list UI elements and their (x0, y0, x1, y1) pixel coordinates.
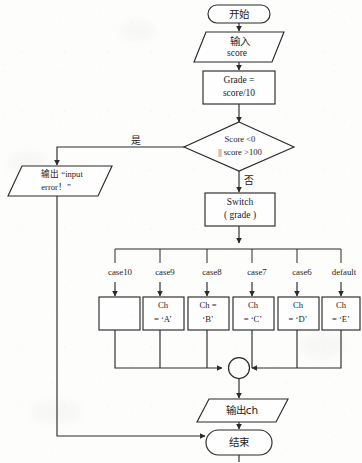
branch-label-yes: 是 (131, 135, 141, 146)
case-box-3-line1: Ch = (199, 300, 216, 310)
node-range-check-label-line2: || score >100 (218, 147, 262, 157)
merge-connector-circle (229, 358, 250, 379)
case-box-1 (99, 297, 140, 330)
case-box-6-line1: Ch (336, 300, 347, 310)
node-error-output-label-line1: 输出 “input (41, 168, 83, 179)
flowchart-canvas: 开始 输入 score Grade = score/10 Score <0 ||… (0, 0, 362, 463)
node-switch-grade-label-line2: ( grade ) (224, 210, 256, 221)
connector-decision-yes-to-error (57, 147, 195, 165)
node-output-ch-label: 输出ch (226, 404, 258, 416)
node-grade-calc-label-line1: Grade = (224, 75, 255, 85)
case-box-6-line2: = ‘E’ (332, 314, 350, 324)
node-error-output-label-line2: error！” (41, 182, 71, 192)
case-label-4: case7 (247, 267, 267, 277)
node-switch-grade-label-line1: Switch (227, 197, 254, 207)
case-box-2-line1: Ch (158, 300, 169, 310)
case-box-5-line2: = ‘D’ (289, 314, 308, 324)
case-box-4-line2: = ‘C’ (244, 314, 263, 324)
connector-box1-to-merge (115, 330, 222, 368)
node-grade-calc-label-line2: score/10 (223, 88, 255, 98)
case-box-5-line1: Ch (293, 300, 304, 310)
case-label-2: case9 (155, 267, 175, 277)
case-box-3-line2: ‘B’ (202, 314, 214, 324)
node-end-label: 结束 (229, 436, 250, 448)
node-start-label: 开始 (229, 8, 250, 20)
node-range-check-label-line1: Score <0 (225, 134, 256, 144)
case-label-1: case10 (108, 267, 133, 277)
node-input-score-label-line1: 输入 (230, 35, 251, 47)
case-label-6: default (332, 267, 357, 277)
case-box-4-line1: Ch (248, 300, 259, 310)
branch-label-no: 否 (244, 175, 254, 186)
case-box-2-line2: = ‘A’ (154, 314, 172, 324)
node-input-score-label-line2: score (227, 48, 247, 58)
case-label-3: case8 (202, 267, 222, 277)
case-label-5: case6 (292, 267, 312, 277)
